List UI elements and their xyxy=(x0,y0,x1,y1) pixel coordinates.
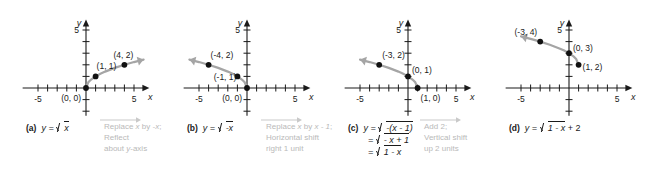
axes-b: -555xy(-4, 2)(-1, 1)(0, 0) xyxy=(161,0,325,120)
x-tick-label-negative: -5 xyxy=(517,94,525,104)
annotation-line-3: about y-axis xyxy=(104,143,200,154)
axes-a: -555xy(0, 0)(1, 1)(4, 2) xyxy=(0,0,164,120)
equation-line: = - x + 1 xyxy=(368,133,409,145)
data-point xyxy=(576,62,582,68)
x-axis-arrowhead xyxy=(464,85,471,91)
radical-symbol: - x + 1 xyxy=(377,133,409,145)
annotation-line-1: Replace x by x - 1; xyxy=(266,121,362,132)
data-point xyxy=(83,85,89,91)
point-label: (-3, 4) xyxy=(515,27,538,37)
data-point xyxy=(122,62,128,68)
point-label: (1, 2) xyxy=(583,62,603,72)
radical-symbol: -x xyxy=(219,121,234,133)
x-axis-arrowhead xyxy=(142,85,149,91)
transform-annotation-a-to-b: Replace x by -x;Reflectabout y-axis xyxy=(104,121,200,154)
radical-symbol: 1 - x xyxy=(377,145,402,157)
x-tick-label-negative: -5 xyxy=(34,94,42,104)
x-axis-label: x xyxy=(308,92,314,102)
x-tick-label-positive: 5 xyxy=(293,94,298,104)
point-label: (0, 1) xyxy=(412,65,432,75)
equation-line: y = 1 - x + 2 xyxy=(525,123,581,133)
point-label: (1, 1) xyxy=(97,61,117,71)
annotation-line-2: Vertical shift xyxy=(424,132,520,143)
x-axis-label: x xyxy=(630,92,636,102)
transformation-figure: -555xy(0, 0)(1, 1)(4, 2)(a)y = x-555xy(-… xyxy=(0,0,654,176)
annotation-line-1: Replace x by -x; xyxy=(104,121,200,132)
data-point xyxy=(566,50,572,56)
transform-annotation-b-to-c: Replace x by x - 1;Horizontal shiftright… xyxy=(266,121,362,154)
y-axis-label: y xyxy=(76,18,82,28)
y-axis-label: y xyxy=(559,18,565,28)
annotation-line-3: right 1 unit xyxy=(266,143,362,154)
plot-b: -555xy(-4, 2)(-1, 1)(0, 0) xyxy=(161,0,325,120)
axes-d: -555xy(-3, 4)(0, 3)(1, 2) xyxy=(483,0,647,120)
equation-line: y = -(x - 1) xyxy=(363,123,412,133)
data-point xyxy=(405,74,411,80)
y-axis-arrowhead xyxy=(83,20,89,27)
transform-annotation-c-to-d: Add 2;Vertical shiftup 2 units xyxy=(424,121,520,154)
x-axis-arrowhead xyxy=(625,85,632,91)
point-label: (4, 2) xyxy=(113,50,133,60)
y-axis-arrowhead xyxy=(405,20,411,27)
y-axis-arrowhead xyxy=(244,20,250,27)
y-axis-label: y xyxy=(237,18,243,28)
x-axis-arrowhead xyxy=(303,85,310,91)
point-label: (0, 0) xyxy=(222,93,242,103)
point-label: (1, 0) xyxy=(421,93,441,103)
y-axis-label: y xyxy=(398,18,404,28)
x-axis-label: x xyxy=(469,92,475,102)
equation-line: y = x xyxy=(41,123,68,133)
data-point xyxy=(537,39,543,45)
equation-line: y = -x xyxy=(203,123,233,133)
annotation-line-2: Horizontal shift xyxy=(266,132,362,143)
plot-c: -555xy(-3, 2)(0, 1)(1, 0) xyxy=(322,0,486,120)
data-point xyxy=(415,85,421,91)
x-tick-label-positive: 5 xyxy=(615,94,620,104)
equation-line: = 1 - x xyxy=(368,145,401,157)
point-label: (-4, 2) xyxy=(211,50,234,60)
y-axis-arrowhead xyxy=(566,20,572,27)
annotation-line-2: Reflect xyxy=(104,132,200,143)
annotation-line-1: Add 2; xyxy=(424,121,520,132)
data-point xyxy=(244,85,250,91)
axes-c: -555xy(-3, 2)(0, 1)(1, 0) xyxy=(322,0,486,120)
plot-d: -555xy(-3, 4)(0, 3)(1, 2) xyxy=(483,0,647,120)
radical-symbol: 1 - x xyxy=(541,121,566,133)
x-axis-label: x xyxy=(147,92,153,102)
point-label: (0, 0) xyxy=(61,93,81,103)
point-label: (-1, 1) xyxy=(214,72,237,82)
panel-tag-a: (a) xyxy=(26,123,36,133)
data-point xyxy=(376,62,382,68)
data-point xyxy=(206,62,212,68)
radical-symbol: x xyxy=(57,121,69,133)
point-label: (0, 3) xyxy=(573,43,593,53)
plot-a: -555xy(0, 0)(1, 1)(4, 2) xyxy=(0,0,164,120)
x-tick-label-negative: -5 xyxy=(195,94,203,104)
x-tick-label-negative: -5 xyxy=(356,94,364,104)
x-tick-label-positive: 5 xyxy=(454,94,459,104)
radical-symbol: -(x - 1) xyxy=(379,121,413,133)
annotation-line-3: up 2 units xyxy=(424,143,520,154)
x-tick-label-positive: 5 xyxy=(132,94,137,104)
data-point xyxy=(93,74,99,80)
point-label: (-3, 2) xyxy=(382,50,405,60)
